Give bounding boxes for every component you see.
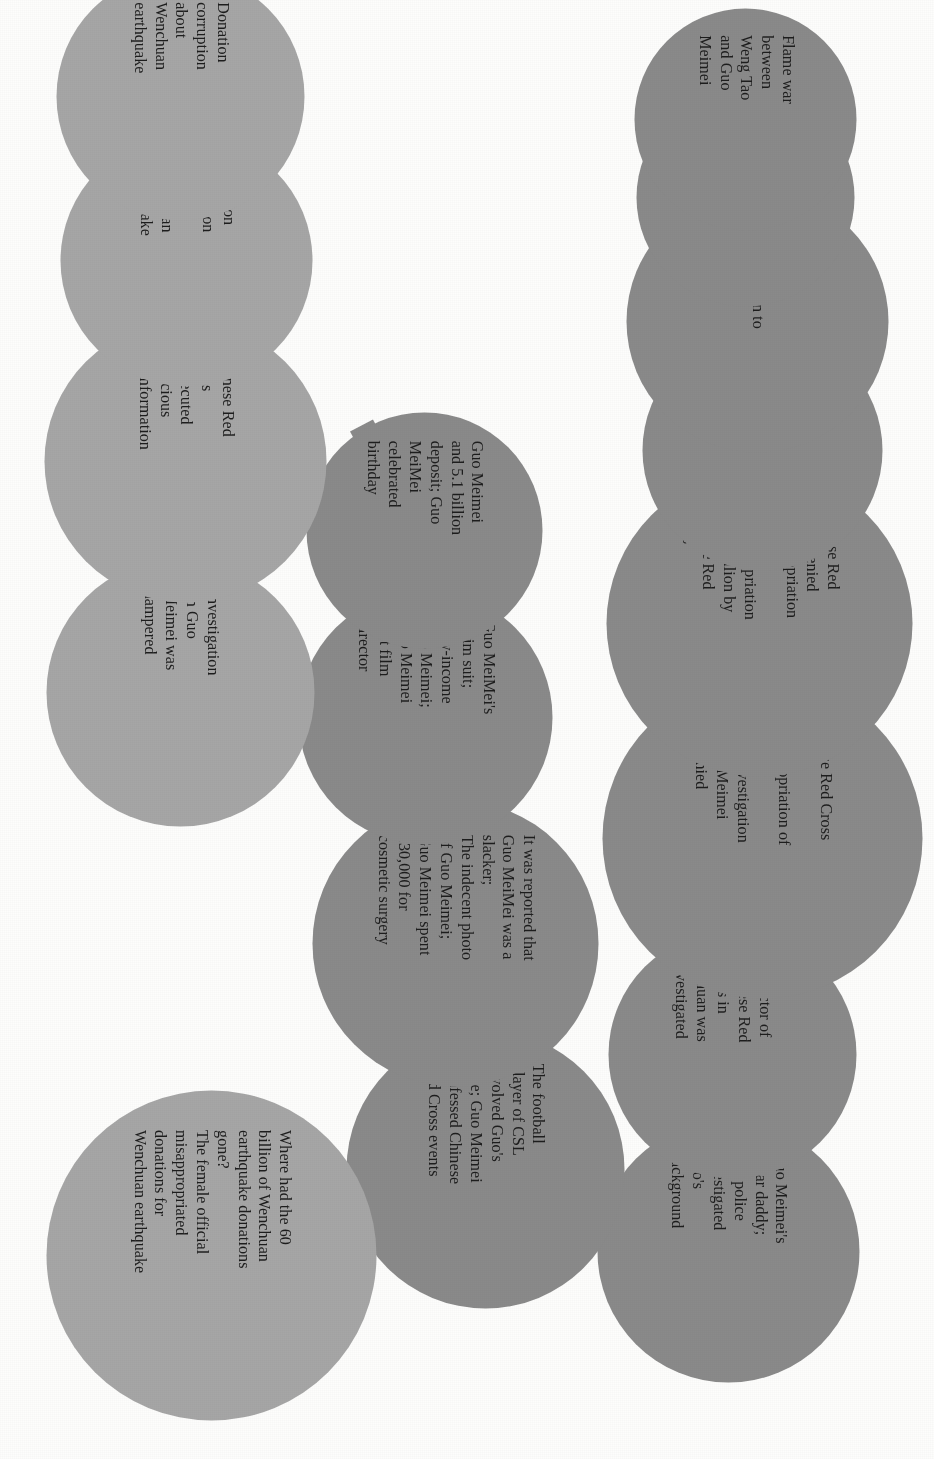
bubble-n12-label: Guo Meimei and 5.1 billion deposit; Guo …	[362, 412, 487, 648]
bubble-n8-label: Flame war between Weng Tao and Guo Meime…	[693, 8, 797, 230]
diagram-canvas: Guo Meimei's sugar daddy; The police inv…	[0, 0, 934, 1459]
bubble-n8[interactable]: Flame war between Weng Tao and Guo Meime…	[634, 8, 856, 230]
bubble-n12[interactable]: Guo Meimei and 5.1 billion deposit; Guo …	[306, 412, 542, 648]
bubble-n13[interactable]: Where had the 60 billion of Wenchuan ear…	[46, 1090, 376, 1420]
bubble-n13-label: Where had the 60 billion of Wenchuan ear…	[128, 1090, 294, 1420]
bubble-n17-label: Donation corruption about Wenchuan earth…	[128, 0, 232, 220]
bubble-chain-diagram: Guo Meimei's sugar daddy; The police inv…	[0, 0, 934, 1459]
